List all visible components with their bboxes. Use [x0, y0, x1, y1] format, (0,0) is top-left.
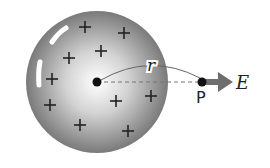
field-arrow — [204, 72, 233, 92]
center-point — [93, 78, 102, 87]
field-label: E — [235, 72, 249, 93]
highlight-strip — [39, 62, 40, 85]
point-label: P — [196, 88, 206, 107]
radius-label-text: r — [147, 55, 156, 75]
point-p — [198, 78, 207, 87]
charged-sphere-diagram: r r P E — [0, 0, 270, 168]
